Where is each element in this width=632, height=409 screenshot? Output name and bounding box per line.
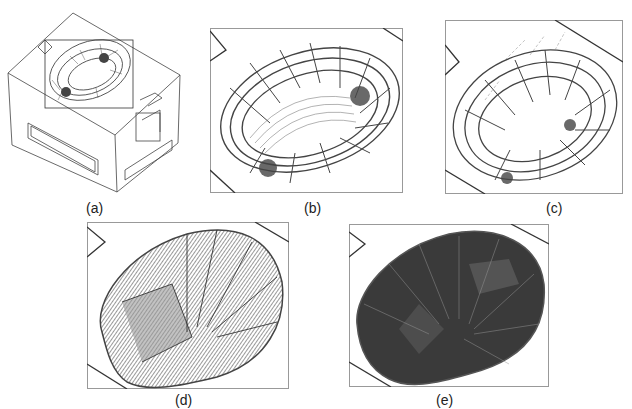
panel-e-label: (e) (436, 392, 453, 408)
panel-a (0, 0, 200, 200)
panel-d-label: (d) (175, 392, 192, 408)
panel-b (210, 28, 403, 193)
cavity-wireframe-c (445, 20, 623, 194)
panel-c (445, 20, 623, 194)
panel-a-label: (a) (86, 200, 103, 216)
cavity-wireframe-b (210, 28, 403, 193)
panel-e (349, 224, 549, 387)
panel-b-label: (b) (304, 200, 321, 216)
panel-c-label: (c) (546, 200, 562, 216)
block-isometric-diagram (0, 0, 200, 200)
panel-d (87, 222, 289, 389)
cavity-toolpath-d (87, 222, 289, 389)
cavity-toolpath-e (349, 224, 549, 387)
